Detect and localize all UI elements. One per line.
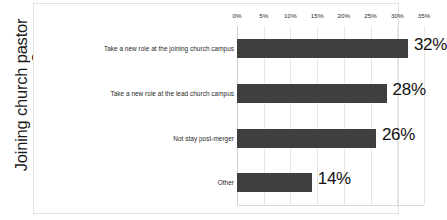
x-tick-label: 25%	[364, 12, 377, 19]
bar-row: Take a new role at the joining church ca…	[237, 26, 437, 71]
category-label: Not stay post-merger	[173, 129, 234, 148]
x-tick-label: 20%	[338, 12, 351, 19]
data-label: 26%	[382, 125, 415, 145]
data-label: 14%	[318, 169, 351, 189]
y-axis-title-line-1: Joining church pastor	[13, 19, 30, 172]
data-label: 28%	[393, 80, 426, 100]
category-label: Take a new role at the joining church ca…	[104, 39, 234, 58]
category-label: Other	[218, 173, 234, 192]
x-tick-label: 10%	[284, 12, 297, 19]
x-tick-label: 35%	[418, 12, 431, 19]
category-label: Take a new role at the lead church campu…	[110, 84, 234, 103]
bar[interactable]	[237, 84, 387, 103]
bar[interactable]	[237, 39, 408, 58]
bar-row: Other14%	[237, 160, 437, 205]
data-label: 32%	[414, 35, 447, 55]
x-tick-label: 30%	[391, 12, 404, 19]
x-tick-label: 0%	[232, 12, 241, 19]
bar-row: Take a new role at the lead church campu…	[237, 71, 437, 116]
x-tick-label: 5%	[259, 12, 268, 19]
x-tick-label: 15%	[311, 12, 324, 19]
bar[interactable]	[237, 129, 376, 148]
bar[interactable]	[237, 173, 312, 192]
chart-frame: 0%5%10%15%20%25%30%35%Take a new role at…	[33, 3, 399, 214]
plot-area: 0%5%10%15%20%25%30%35%Take a new role at…	[237, 26, 424, 206]
bar-row: Not stay post-merger26%	[237, 116, 437, 161]
